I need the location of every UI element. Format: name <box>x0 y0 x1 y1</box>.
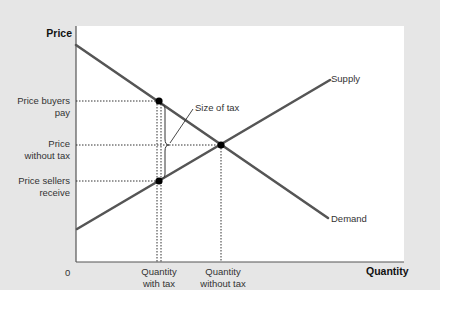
label-line: Quantity <box>129 266 189 278</box>
label-quantity-with-tax: Quantity with tax <box>129 266 189 290</box>
label-line: without tax <box>0 150 70 162</box>
origin-label: 0 <box>65 267 70 279</box>
label-line: pay <box>0 107 70 119</box>
x-axis-title: Quantity <box>366 265 409 277</box>
demand-curve <box>76 45 328 218</box>
supply-label: Supply <box>331 73 360 85</box>
demand-label: Demand <box>331 213 367 225</box>
size-of-tax-annotation: Size of tax <box>195 102 239 114</box>
label-price-without-tax: Price without tax <box>0 138 70 162</box>
y-axis-title: Price <box>20 27 72 39</box>
label-line: Quantity <box>191 266 255 278</box>
point-price-buyers <box>155 97 162 104</box>
label-line: with tax <box>129 278 189 290</box>
point-equilibrium <box>217 141 224 148</box>
tax-leader-line <box>170 109 193 143</box>
label-line: receive <box>0 187 70 199</box>
label-line: without tax <box>191 278 255 290</box>
label-line: Price <box>0 138 70 150</box>
label-quantity-without-tax: Quantity without tax <box>191 266 255 290</box>
guide-lines <box>76 101 221 262</box>
label-line: Price sellers <box>0 175 70 187</box>
label-line: Price buyers <box>0 95 70 107</box>
point-price-sellers <box>155 177 162 184</box>
label-price-sellers-receive: Price sellers receive <box>0 175 70 199</box>
label-price-buyers-pay: Price buyers pay <box>0 95 70 119</box>
